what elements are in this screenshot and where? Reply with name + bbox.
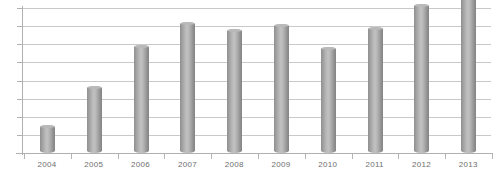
bar bbox=[414, 4, 429, 153]
x-axis-tick bbox=[71, 154, 72, 159]
bar bbox=[227, 29, 242, 153]
bar-chart: 2004200520062007200820092010201120122013 bbox=[0, 0, 497, 186]
x-axis-tick bbox=[305, 154, 306, 159]
bar-top-cap bbox=[40, 125, 55, 128]
bar-top-cap bbox=[180, 22, 195, 25]
x-axis-label: 2010 bbox=[305, 160, 351, 169]
bar bbox=[180, 22, 195, 153]
x-axis-tick bbox=[258, 154, 259, 159]
x-axis-line bbox=[16, 153, 493, 154]
x-axis-tick bbox=[492, 154, 493, 159]
bar bbox=[87, 86, 102, 153]
x-axis-label: 2013 bbox=[445, 160, 491, 169]
x-axis-label: 2012 bbox=[398, 160, 444, 169]
x-axis-label: 2009 bbox=[258, 160, 304, 169]
bar bbox=[40, 125, 55, 153]
x-axis-tick bbox=[398, 154, 399, 159]
bar-top-cap bbox=[321, 47, 336, 50]
bar-top-cap bbox=[134, 45, 149, 48]
x-axis-tick bbox=[24, 154, 25, 159]
bar-top-cap bbox=[368, 27, 383, 30]
x-axis-tick bbox=[445, 154, 446, 159]
bar bbox=[134, 45, 149, 153]
x-axis-tick bbox=[164, 154, 165, 159]
x-axis-label: 2007 bbox=[164, 160, 210, 169]
x-axis-label: 2008 bbox=[211, 160, 257, 169]
x-axis-tick bbox=[352, 154, 353, 159]
bar-top-cap bbox=[274, 24, 289, 27]
x-axis-label: 2005 bbox=[71, 160, 117, 169]
x-axis-label: 2004 bbox=[24, 160, 70, 169]
bar bbox=[274, 24, 289, 153]
x-axis-label: 2011 bbox=[352, 160, 398, 169]
x-axis-tick bbox=[118, 154, 119, 159]
bar-top-cap bbox=[414, 4, 429, 7]
bar-top-cap bbox=[227, 29, 242, 32]
bar-top-cap bbox=[87, 86, 102, 89]
bar bbox=[368, 27, 383, 153]
bar bbox=[461, 0, 476, 153]
y-axis-line bbox=[22, 6, 23, 155]
x-axis-tick bbox=[211, 154, 212, 159]
x-axis-label: 2006 bbox=[118, 160, 164, 169]
bar bbox=[321, 47, 336, 153]
plot-area: 2004200520062007200820092010201120122013 bbox=[0, 0, 497, 186]
